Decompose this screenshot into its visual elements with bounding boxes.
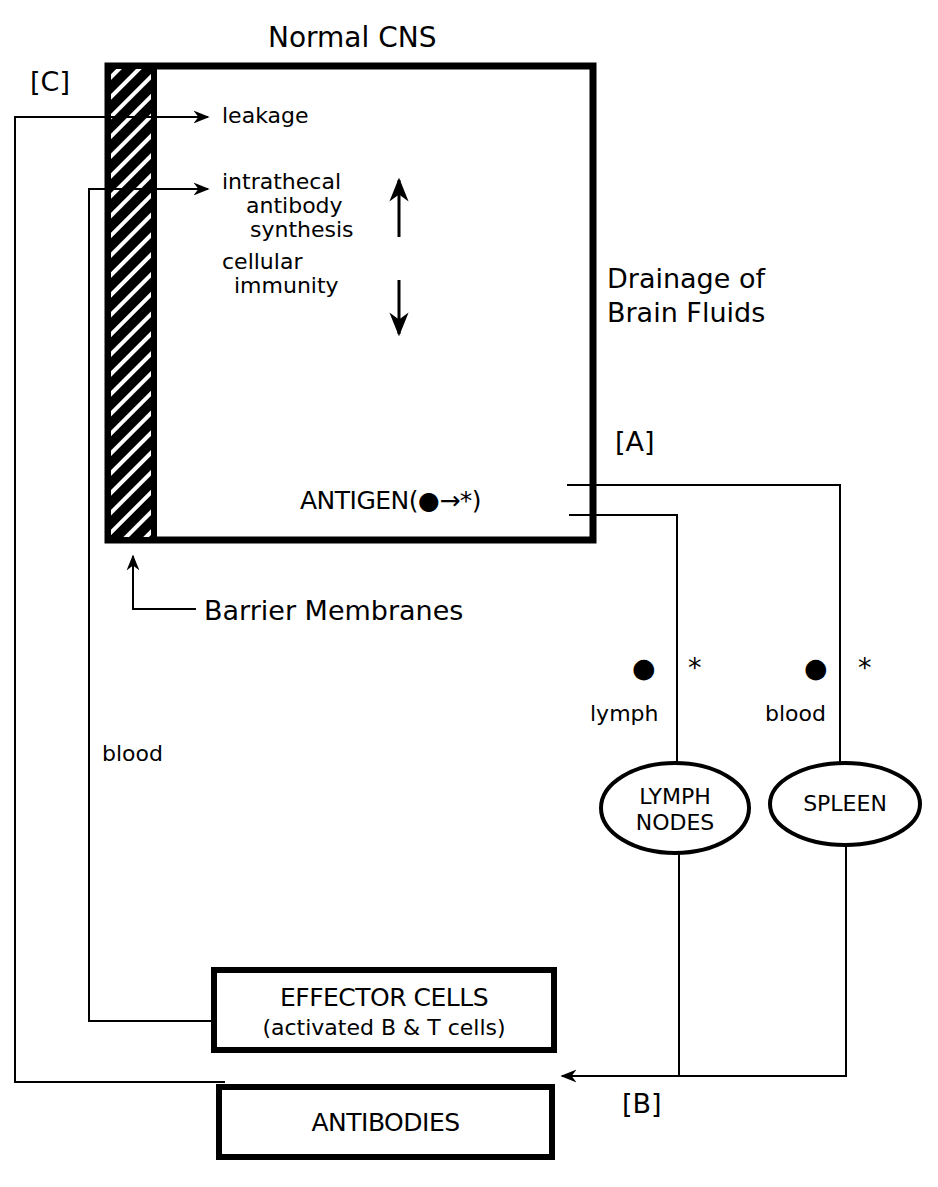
marker-c: [C] (30, 68, 70, 95)
antigen-label: ANTIGEN(●→*) (300, 488, 481, 513)
spleen-label: SPLEEN (785, 793, 905, 815)
diagram-title: Normal CNS (268, 24, 436, 52)
lymph-antigen-star: * (688, 654, 702, 681)
cellular-immunity-label: cellular immunity (222, 250, 339, 298)
marker-b: [B] (622, 1090, 662, 1117)
lymph-antigen-dot: ● (632, 654, 656, 681)
drainage-label: Drainage of Brain Fluids (607, 262, 765, 330)
blood-left-label: blood (102, 743, 163, 765)
intrathecal-label: intrathecal antibody synthesis (222, 170, 392, 242)
barrier-membranes-label: Barrier Membranes (204, 597, 463, 624)
lymph-route-label: lymph (590, 703, 658, 725)
return-path (562, 845, 846, 1076)
marker-a: [A] (615, 428, 655, 455)
cns-box (108, 66, 593, 540)
barrier-membrane (108, 66, 154, 540)
effector-cells-label: EFFECTOR CELLS (activated B & T cells) (214, 983, 554, 1043)
blood-antigen-star: * (858, 654, 872, 681)
blood-route-label: blood (765, 703, 826, 725)
antibodies-label: ANTIBODIES (219, 1110, 552, 1135)
leakage-label: leakage (222, 105, 308, 127)
lymph-nodes-label: LYMPH NODES (615, 784, 735, 836)
blood-antigen-dot: ● (804, 654, 828, 681)
barrier-pointer (133, 556, 196, 609)
